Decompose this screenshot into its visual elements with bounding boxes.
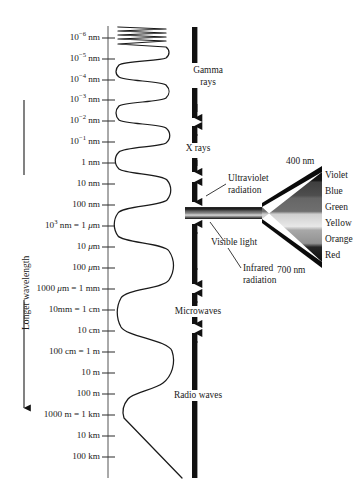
band-label-gamma-line1: Gamma xyxy=(178,65,238,76)
tick-label: 1 nm xyxy=(34,157,100,167)
band-label-ultraviolet-line1: Ultraviolet xyxy=(228,173,269,184)
color-label-yellow: Yellow xyxy=(325,218,352,229)
tick-label: 100 m xyxy=(34,388,100,398)
band-label-infrared-line1: Infrared xyxy=(243,263,273,274)
tick-label: 10mm = 1 cm xyxy=(14,304,100,314)
color-label-green: Green xyxy=(325,202,348,213)
color-label-orange: Orange xyxy=(325,234,353,245)
tick-label: 10−4 nm xyxy=(34,74,100,84)
spectrum-700nm-label: 700 nm xyxy=(277,265,305,276)
tick-label: 1000 m = 1 km xyxy=(8,409,100,419)
tick-label: 10−3 nm xyxy=(34,94,100,104)
tick-label: 10−2 nm xyxy=(34,115,100,125)
color-label-red: Red xyxy=(325,250,340,261)
band-label-x-rays: X rays xyxy=(175,143,221,154)
tick-label: 1000 μm = 1 mm xyxy=(6,283,100,293)
infrared-bar xyxy=(192,224,197,284)
tick-label: 100 cm = 1 m xyxy=(14,346,100,356)
radio-waves-bar xyxy=(192,333,197,478)
wavelength-axis xyxy=(102,26,115,478)
tick-label: 103 nm = 1 μm xyxy=(14,220,100,230)
tick-label: 10 km xyxy=(34,430,100,440)
tick-label: 100 nm xyxy=(34,199,100,209)
band-label-infrared-line2: radiation xyxy=(243,275,276,286)
band-label-gamma-line2: rays xyxy=(178,77,238,88)
color-label-violet: Violet xyxy=(325,170,348,181)
tick-label: 10−1 nm xyxy=(34,136,100,146)
leader-lines xyxy=(206,184,241,268)
spectrum-400nm-label: 400 nm xyxy=(286,156,314,167)
tick-label: 10 m xyxy=(34,367,100,377)
tick-label: 10−6 nm xyxy=(34,32,100,42)
band-label-visible-light: Visible light xyxy=(211,237,257,248)
tick-label: 100 μm xyxy=(34,262,100,272)
em-spectrum-figure: Longer wavelength 10−6 nm 10−5 nm 10−4 n… xyxy=(0,0,363,496)
tick-label: 10 cm xyxy=(34,325,100,335)
band-label-radio-waves: Radio waves xyxy=(160,390,236,401)
tick-label: 100 km xyxy=(34,451,100,461)
tick-label: 10 nm xyxy=(34,178,100,188)
band-label-ultraviolet-line2: radiation xyxy=(228,185,261,196)
tick-label: 10−5 nm xyxy=(34,53,100,63)
color-label-blue: Blue xyxy=(325,186,343,197)
wavelength-sine-curve xyxy=(114,27,182,478)
tick-label: 10 μm xyxy=(34,241,100,251)
band-label-microwaves: Microwaves xyxy=(162,306,234,317)
